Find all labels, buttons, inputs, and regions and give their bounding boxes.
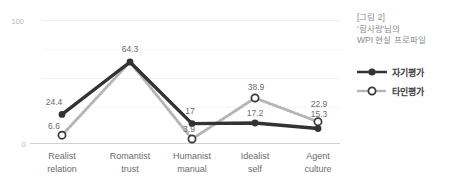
solid-line-filled-dot-icon	[357, 65, 387, 79]
cat-label-4-line2: culture	[304, 164, 331, 174]
data-label-other-2: 3.9	[183, 124, 195, 134]
data-label-other-4: 22.9	[311, 99, 328, 109]
data-label-self-2: 17	[185, 106, 195, 116]
legend-label-self-evaluation: 자기평가	[392, 66, 424, 79]
chart-panel: 100 0 24.4 64.3	[0, 0, 345, 190]
data-label-other-0: 6.6	[48, 121, 60, 131]
side-panel: [그림 2] '힘사랑'님의 WPI 현실 프로파일 자기평가	[352, 0, 463, 190]
data-label-self-4: 15.3	[311, 109, 328, 119]
cat-label-1-line1: Romantist	[110, 151, 151, 161]
data-label-self-0: 24.4	[46, 97, 63, 107]
data-label-other-3: 38.9	[248, 82, 265, 92]
caption-line-3: WPI 현실 프로파일	[357, 35, 463, 47]
data-point-self-3	[252, 120, 259, 127]
cat-label-2-line2: manual	[177, 164, 207, 174]
data-point-self-1	[127, 59, 134, 66]
data-point-other-3	[251, 94, 258, 101]
cat-label-2-line1: Humanist	[173, 151, 212, 161]
data-label-self-3: 17.2	[247, 108, 264, 118]
y-tick-label-bottom: 0	[22, 140, 26, 149]
legend-label-other-evaluation: 타인평가	[392, 85, 424, 98]
chart-legend: 자기평가 타인평가	[357, 64, 463, 102]
chart-screenshot: 100 0 24.4 64.3	[0, 0, 463, 190]
legend-item-self-evaluation[interactable]: 자기평가	[357, 64, 463, 80]
cat-label-0-line1: Realist	[48, 151, 76, 161]
cat-label-3-line1: Idealist	[241, 151, 270, 161]
caption-line-2: '힘사랑'님의	[357, 24, 463, 36]
data-point-other-0	[58, 132, 65, 139]
x-axis-category-labels: Realist relation Romantist trust Humanis…	[47, 151, 331, 174]
data-point-other-4	[314, 118, 321, 125]
data-point-self-4	[315, 125, 322, 132]
data-point-other-2	[188, 135, 195, 142]
y-tick-label-top: 100	[11, 17, 24, 26]
legend-item-other-evaluation[interactable]: 타인평가	[357, 83, 463, 99]
cat-label-0-line2: relation	[47, 164, 77, 174]
figure-caption: [그림 2] '힘사랑'님의 WPI 현실 프로파일	[357, 12, 463, 47]
data-label-self-1: 64.3	[122, 44, 139, 54]
dotted-line-hollow-dot-icon	[357, 84, 387, 98]
cat-label-3-line2: self	[248, 164, 263, 174]
line-chart-svg: 100 0 24.4 64.3	[0, 0, 345, 190]
cat-label-1-line2: trust	[121, 164, 139, 174]
caption-line-1: [그림 2]	[357, 12, 463, 24]
data-point-self-0	[59, 111, 66, 118]
cat-label-4-line1: Agent	[306, 151, 330, 161]
